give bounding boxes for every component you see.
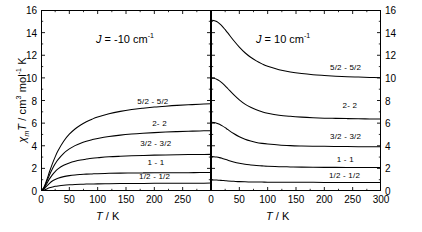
y-tick-label: 8	[15, 95, 37, 106]
curve-label-2---2: 2- 2	[343, 101, 358, 110]
x-axis-T-symbol-left: T	[96, 210, 103, 222]
y-tick-label: 6	[15, 118, 37, 129]
y-tick-label: 6	[385, 118, 407, 129]
y-tick-label: 4	[385, 140, 407, 151]
annotation-J-value-left: = -10 cm	[102, 33, 148, 45]
plot-panel-left: J = -10 cm-1	[41, 10, 211, 191]
y-tick-label: 8	[385, 95, 407, 106]
x-tick-label: 200	[146, 194, 163, 205]
y-tick-label: 14	[15, 27, 37, 38]
curve-label-1---1: 1 - 1	[337, 154, 354, 163]
curve-label-1-2---1-2: 1/2 - 1/2	[139, 171, 170, 180]
figure-container: χmT / cm3 mol-1 K J = -10 cm-1 J = 10 cm…	[0, 0, 422, 232]
curve-label-1-2---1-2: 1/2 - 1/2	[329, 170, 360, 179]
y-tick-label: 14	[385, 27, 407, 38]
x-tick-label: 50	[64, 194, 75, 205]
curve-label-5-2---5-2: 5/2 - 5/2	[330, 62, 361, 71]
annotation-J-exponent-right: -1	[304, 32, 310, 39]
x-axis-unit-right: / K	[273, 210, 290, 222]
y-tick-label: 2	[15, 163, 37, 174]
y-tick-label: 10	[15, 72, 37, 83]
y-tick-label: 4	[15, 140, 37, 151]
x-tick-label: 250	[344, 194, 361, 205]
y-tick-label: 0	[385, 186, 407, 197]
curve-label-1---1: 1 - 1	[148, 157, 165, 166]
x-tick-label: 150	[288, 194, 305, 205]
y-tick-label: 16	[15, 5, 37, 16]
x-tick-label: 250	[174, 194, 191, 205]
curve-5-2---5-2	[41, 104, 211, 191]
x-tick-label: 100	[259, 194, 276, 205]
x-tick-label: 150	[118, 194, 135, 205]
x-axis-T-symbol-right: T	[266, 210, 273, 222]
x-tick-label: 50	[234, 194, 245, 205]
y-tick-label: 2	[385, 163, 407, 174]
curve-label-3-2---3-2: 3/2 - 3/2	[330, 132, 361, 141]
y-tick-label: 12	[385, 50, 407, 61]
curve-label-3-2---3-2: 3/2 - 3/2	[140, 139, 171, 148]
x-tick-label: 0	[38, 194, 44, 205]
x-axis-unit-left: / K	[103, 210, 120, 222]
y-axis-chi-subscript: m	[23, 131, 30, 137]
curve-2---2	[211, 78, 381, 119]
x-tick-label: 200	[316, 194, 333, 205]
annotation-J-exponent-left: -1	[148, 32, 154, 39]
y-tick-label: 16	[385, 5, 407, 16]
curve-1---1	[211, 157, 381, 168]
x-tick-label: 100	[89, 194, 106, 205]
curve-2---2	[41, 131, 211, 191]
x-axis-title-right: T / K	[266, 210, 289, 222]
y-tick-label: 10	[385, 72, 407, 83]
annotation-J-value-right: = 10 cm	[262, 33, 305, 45]
y-tick-label: 12	[15, 50, 37, 61]
x-axis-title-left: T / K	[96, 210, 119, 222]
curve-label-5-2---5-2: 5/2 - 5/2	[137, 96, 168, 105]
curve-label-2---2: 2- 2	[152, 119, 167, 128]
annotation-J-right: J = 10 cm-1	[256, 33, 310, 45]
annotation-J-left: J = -10 cm-1	[96, 33, 154, 45]
curve-1-2---1-2	[211, 180, 381, 183]
y-tick-label: 0	[15, 186, 37, 197]
x-tick-label: 0	[208, 194, 214, 205]
